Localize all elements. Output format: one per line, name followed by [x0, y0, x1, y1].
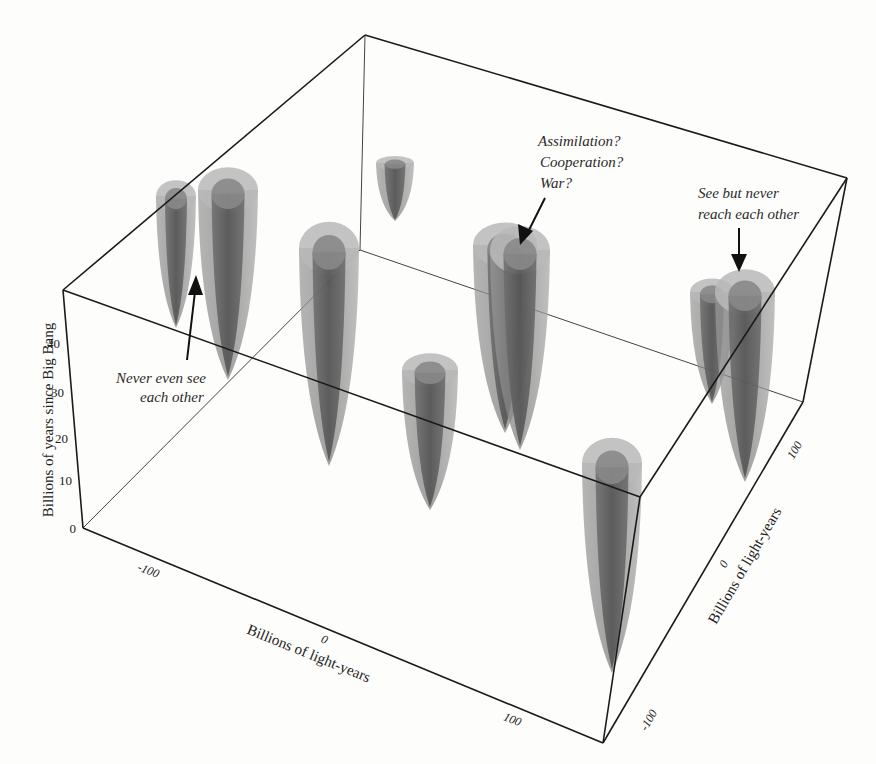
- arrow-up-icon: [188, 275, 203, 295]
- cone-left-center: [299, 222, 359, 466]
- annotation-2-line-2: Cooperation?: [540, 154, 624, 170]
- cone-front: [582, 438, 642, 673]
- cone-right-b: [715, 269, 775, 482]
- annotation-2-line-1: Assimilation?: [537, 133, 621, 149]
- x-tick-0: 0: [319, 632, 330, 647]
- annotation-3-line-1: See but never: [698, 185, 779, 201]
- chart-canvas: 0 10 20 30 40 Billions of years since Bi…: [0, 0, 876, 764]
- x-axis-label: Billions of light-years: [245, 621, 373, 685]
- y-tick-minus100: -100: [637, 707, 660, 733]
- cone-pair-left-a: [156, 180, 196, 328]
- y-axis-label: Billions of light-years: [705, 504, 785, 626]
- cone-back-center: [376, 156, 414, 221]
- annotation-assimilation: Assimilation? Cooperation? War?: [518, 133, 624, 245]
- annotation-3-line-2: reach each other: [698, 206, 799, 222]
- annotation-1-line-1: Never even see: [115, 370, 206, 386]
- z-tick-10: 10: [59, 473, 72, 488]
- x-tick-minus100: -100: [136, 560, 162, 581]
- x-tick-100: 100: [502, 709, 524, 729]
- z-tick-0: 0: [70, 521, 77, 536]
- y-tick-0: 0: [716, 558, 731, 570]
- cones: [156, 156, 775, 673]
- annotation-never-see: Never even see each other: [115, 275, 206, 405]
- z-axis-label: Billions of years since Big Bang: [40, 322, 56, 517]
- chart-3d-light-cones: 0 10 20 30 40 Billions of years since Bi…: [0, 0, 876, 764]
- cone-pair-left-b: [198, 167, 258, 380]
- z-tick-20: 20: [55, 431, 68, 446]
- annotation-see-never-reach: See but never reach each other: [698, 185, 799, 272]
- cone-middle: [402, 353, 458, 510]
- annotation-2-line-3: War?: [540, 175, 572, 191]
- y-tick-100: 100: [784, 439, 805, 462]
- annotation-1-line-2: each other: [140, 389, 204, 405]
